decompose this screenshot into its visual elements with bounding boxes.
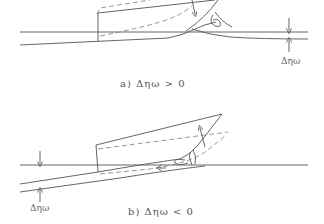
panel-a-drawing — [20, 0, 308, 52]
diagram-canvas — [0, 0, 324, 224]
dimension-label-a: Δηω — [281, 56, 300, 66]
dashed-hull-bottom-a — [100, 6, 192, 36]
spray-curve-b — [189, 152, 192, 165]
caption-b: b) Δηω < 0 — [128, 206, 194, 217]
hull-outline-b — [96, 114, 222, 172]
panel-b-drawing — [20, 114, 308, 202]
ramp-line-a — [20, 22, 216, 45]
wake-line-a — [192, 29, 308, 39]
dimension-label-b: Δηω — [30, 203, 49, 213]
vortex-curl-b — [174, 159, 188, 164]
dashed-hull-top-b — [98, 132, 228, 149]
hull-outline-a — [98, 0, 215, 41]
spray-curve-b2 — [193, 150, 196, 164]
hull-bottom-b — [20, 114, 222, 184]
caption-a: a) Δηω > 0 — [120, 78, 186, 89]
